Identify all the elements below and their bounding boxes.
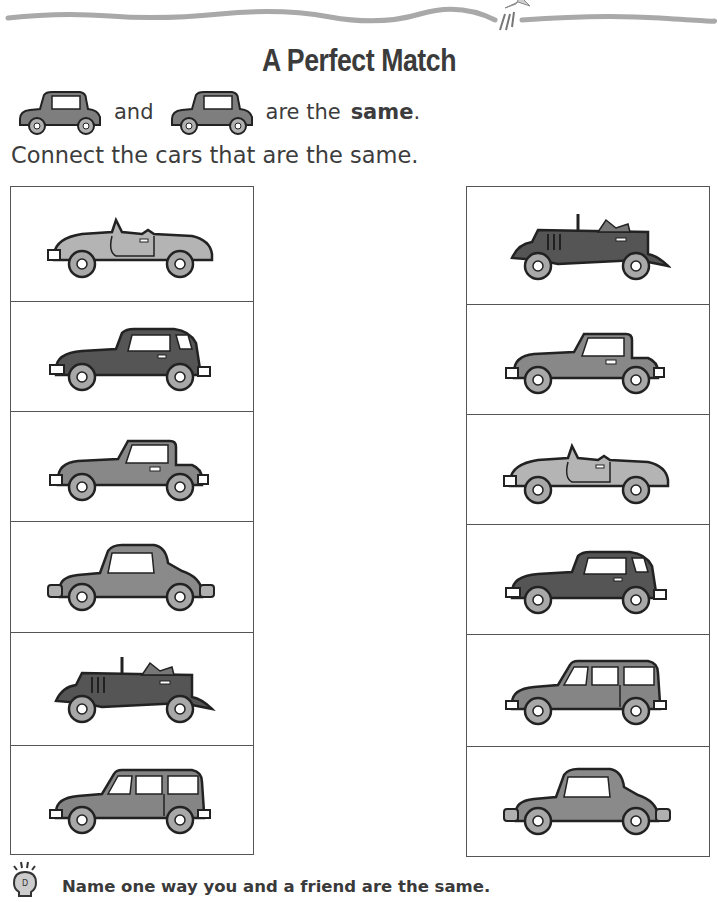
- tip-section: D Name one way you and a friend are the …: [8, 858, 490, 900]
- station-wagon-car-icon: [42, 764, 222, 836]
- instruction-text: Connect the cars that are the same.: [11, 142, 418, 168]
- word-and: and: [114, 100, 154, 124]
- tip-text: Name one way you and a friend are the sa…: [62, 877, 490, 896]
- decorative-crayon-border: [0, 0, 718, 40]
- sedan-car-icon: [164, 89, 256, 135]
- left-cell-1[interactable]: [11, 187, 253, 302]
- vintage-touring-car-icon: [42, 653, 222, 725]
- right-cell-2[interactable]: [467, 305, 709, 415]
- right-cell-4[interactable]: [467, 525, 709, 635]
- station-wagon-car-icon: [498, 655, 678, 727]
- left-car-column: [10, 186, 254, 855]
- right-cell-6[interactable]: [467, 747, 709, 855]
- sedan-car-icon: [12, 89, 104, 135]
- shooting-star-icon: [500, 0, 530, 30]
- left-cell-6[interactable]: [11, 746, 253, 853]
- left-cell-3[interactable]: [11, 412, 253, 522]
- period: .: [413, 100, 420, 124]
- word-same: same: [351, 100, 414, 124]
- vintage-touring-car-icon: [498, 210, 678, 282]
- fastback-coupe-car-icon: [498, 544, 678, 616]
- example-sentence: and are the same.: [12, 88, 420, 136]
- bubble-car-icon: [42, 541, 222, 613]
- svg-text:D: D: [22, 879, 28, 888]
- word-are-the: are the: [266, 100, 341, 124]
- jeep-hardtop-car-icon: [42, 431, 222, 503]
- lightbulb-icon: D: [8, 858, 42, 900]
- right-cell-3[interactable]: [467, 415, 709, 525]
- right-car-column: [466, 186, 710, 857]
- jeep-hardtop-car-icon: [498, 324, 678, 396]
- fastback-coupe-car-icon: [42, 321, 222, 393]
- right-cell-5[interactable]: [467, 635, 709, 747]
- left-cell-5[interactable]: [11, 633, 253, 746]
- left-cell-2[interactable]: [11, 302, 253, 412]
- page-title: A Perfect Match: [50, 43, 667, 79]
- convertible-roadster-car-icon: [498, 434, 678, 506]
- convertible-roadster-car-icon: [42, 208, 222, 280]
- right-cell-1[interactable]: [467, 187, 709, 305]
- bubble-car-icon: [498, 765, 678, 837]
- left-cell-4[interactable]: [11, 522, 253, 633]
